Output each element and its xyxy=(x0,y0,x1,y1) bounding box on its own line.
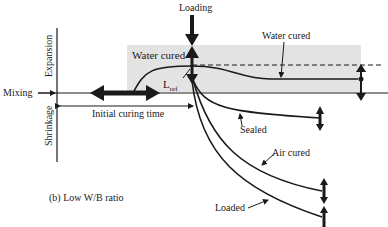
water-cured-box-label: Water cured xyxy=(132,49,186,61)
caption: (b) Low W/B ratio xyxy=(49,192,124,204)
sealed-label: Sealed xyxy=(240,124,267,135)
loaded-label-leader xyxy=(248,200,268,208)
water-cured-curve-label: Water cured xyxy=(262,30,310,41)
curing-period-double-arrow-icon xyxy=(90,85,160,101)
mixing-label: Mixing xyxy=(3,87,32,98)
shrinkage-diagram: Loading Water cured Water cured Lref Mix… xyxy=(0,0,388,227)
initial-curing-time-label: Initial curing time xyxy=(92,108,165,119)
air-cured-label: Air cured xyxy=(272,147,310,158)
expansion-axis-label: Expansion xyxy=(43,35,54,77)
air-cured-curve xyxy=(193,80,322,191)
loaded-label: Loaded xyxy=(215,202,245,213)
loading-label: Loading xyxy=(179,2,212,13)
shrinkage-axis-label: Shrinkage xyxy=(43,105,54,146)
